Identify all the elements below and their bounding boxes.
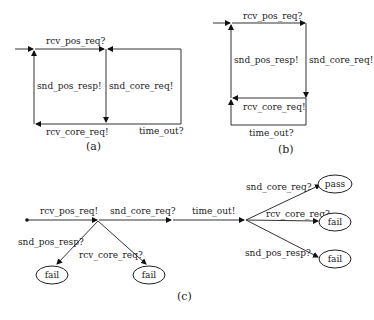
diagram-a: rcv_pos_req? snd_pos_resp! snd_core_req!… bbox=[15, 36, 184, 153]
diagram-c: rcv_pos_req! snd_core_req? time_out! snd… bbox=[18, 175, 352, 303]
label-a-left: snd_pos_resp! bbox=[37, 81, 102, 92]
label-c-main-2: time_out! bbox=[192, 206, 235, 217]
label-c-main-0: rcv_pos_req! bbox=[40, 206, 98, 217]
label-c-branch-0: snd_pos_resp? bbox=[18, 237, 84, 248]
diagram-b: rcv_pos_req? snd_pos_resp! snd_core_req!… bbox=[213, 11, 373, 156]
label-b-middle: rcv_core_req! bbox=[243, 102, 306, 113]
caption-c: (c) bbox=[177, 290, 192, 303]
label-a-right: time_out? bbox=[139, 126, 184, 137]
verdict-label: fail bbox=[45, 270, 60, 280]
verdict-label: fail bbox=[328, 217, 343, 227]
caption-a: (a) bbox=[86, 140, 101, 153]
label-c-branch-last-2: snd_pos_resp? bbox=[245, 248, 311, 259]
verdict-label: pass bbox=[325, 179, 346, 189]
label-b-bottom: time_out? bbox=[249, 128, 294, 139]
verdict-label: fail bbox=[142, 270, 157, 280]
caption-b: (b) bbox=[278, 143, 294, 156]
label-b-right: snd_core_req! bbox=[309, 55, 373, 66]
figure-canvas: rcv_pos_req? snd_pos_resp! snd_core_req!… bbox=[0, 0, 374, 320]
label-a-middle: snd_core_req! bbox=[109, 81, 173, 92]
verdict-label: fail bbox=[328, 254, 343, 264]
label-a-top: rcv_pos_req? bbox=[46, 36, 106, 47]
label-c-main-1: snd_core_req? bbox=[110, 206, 176, 217]
label-c-branch-1: rcv_core_req? bbox=[79, 250, 143, 261]
label-a-bottom: rcv_core_req! bbox=[46, 127, 109, 138]
label-c-branch-last-0: snd_core_req? bbox=[246, 182, 312, 193]
edge-c-branch-rcv-core-req bbox=[246, 220, 318, 221]
label-b-left: snd_pos_resp! bbox=[234, 55, 299, 66]
label-b-top: rcv_pos_req? bbox=[243, 11, 303, 22]
